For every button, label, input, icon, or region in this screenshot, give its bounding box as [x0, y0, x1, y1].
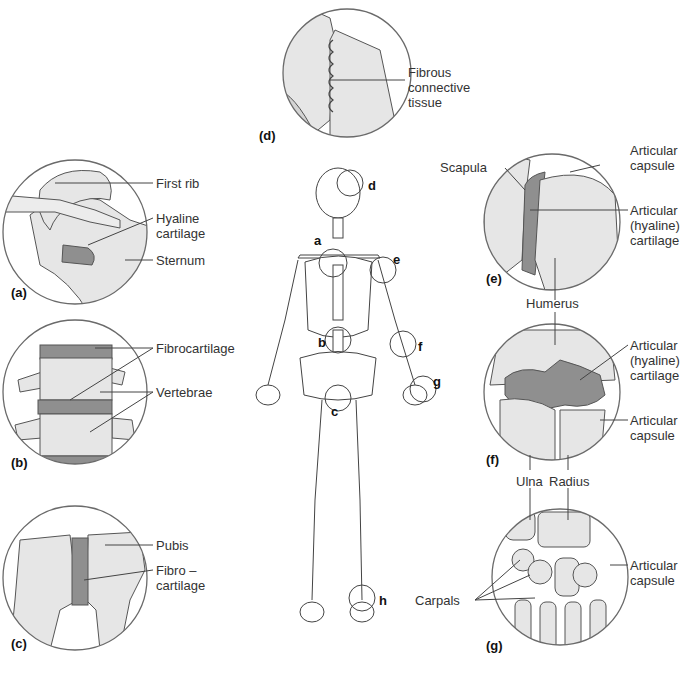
label-articular-f2: Articular: [630, 413, 678, 428]
label-humerus: Humerus: [526, 296, 579, 311]
label-articular-e2: Articular: [630, 203, 678, 218]
marker-c: c: [331, 404, 338, 419]
marker-a: a: [314, 233, 321, 248]
skeleton-illustration: [256, 168, 436, 622]
marker-f: f: [418, 339, 422, 354]
panel-a-tag: (a): [11, 285, 27, 300]
panel-b-illustration: [0, 320, 160, 470]
joints-diagram: [0, 0, 688, 677]
label-articular-f1: Articular: [630, 338, 678, 353]
label-cartilage: cartilage: [156, 226, 205, 241]
label-fibrous: Fibrous: [408, 65, 451, 80]
marker-b: b: [318, 335, 326, 350]
panel-c-tag: (c): [11, 636, 27, 651]
marker-h: h: [379, 593, 387, 608]
label-cartilage-e: cartilage: [630, 233, 679, 248]
panel-b-tag: (b): [11, 455, 28, 470]
label-first-rib: First rib: [156, 176, 199, 191]
marker-d: d: [368, 178, 376, 193]
label-articular-g: Articular: [630, 558, 678, 573]
marker-e: e: [393, 252, 400, 267]
label-fibro: Fibro –: [156, 563, 196, 578]
panel-d-tag: (d): [259, 128, 276, 143]
label-ulna: Ulna: [516, 474, 543, 489]
label-hyaline-f: (hyaline): [630, 353, 680, 368]
label-sternum: Sternum: [156, 253, 205, 268]
label-vertebrae: Vertebrae: [156, 385, 212, 400]
label-cartilage-c: cartilage: [156, 578, 205, 593]
label-scapula: Scapula: [440, 160, 487, 175]
label-pubis: Pubis: [156, 538, 189, 553]
panel-e-tag: (e): [486, 271, 502, 286]
label-cartilage-f: cartilage: [630, 368, 679, 383]
panel-g-tag: (g): [486, 638, 503, 653]
label-capsule-f: capsule: [630, 428, 675, 443]
label-capsule-g: capsule: [630, 573, 675, 588]
label-hyaline: Hyaline: [156, 211, 199, 226]
label-capsule-e: capsule: [630, 158, 675, 173]
panel-g-illustration: [490, 505, 630, 652]
label-fibrocartilage: Fibrocartilage: [156, 341, 235, 356]
label-tissue: tissue: [408, 95, 442, 110]
label-carpals: Carpals: [415, 593, 460, 608]
label-connective: connective: [408, 80, 470, 95]
label-articular-e1: Articular: [630, 143, 678, 158]
label-hyaline-e: (hyaline): [630, 218, 680, 233]
panel-d-illustration: [280, 0, 420, 145]
panel-f-tag: (f): [486, 452, 499, 467]
label-radius: Radius: [549, 474, 589, 489]
marker-g: g: [433, 374, 441, 389]
